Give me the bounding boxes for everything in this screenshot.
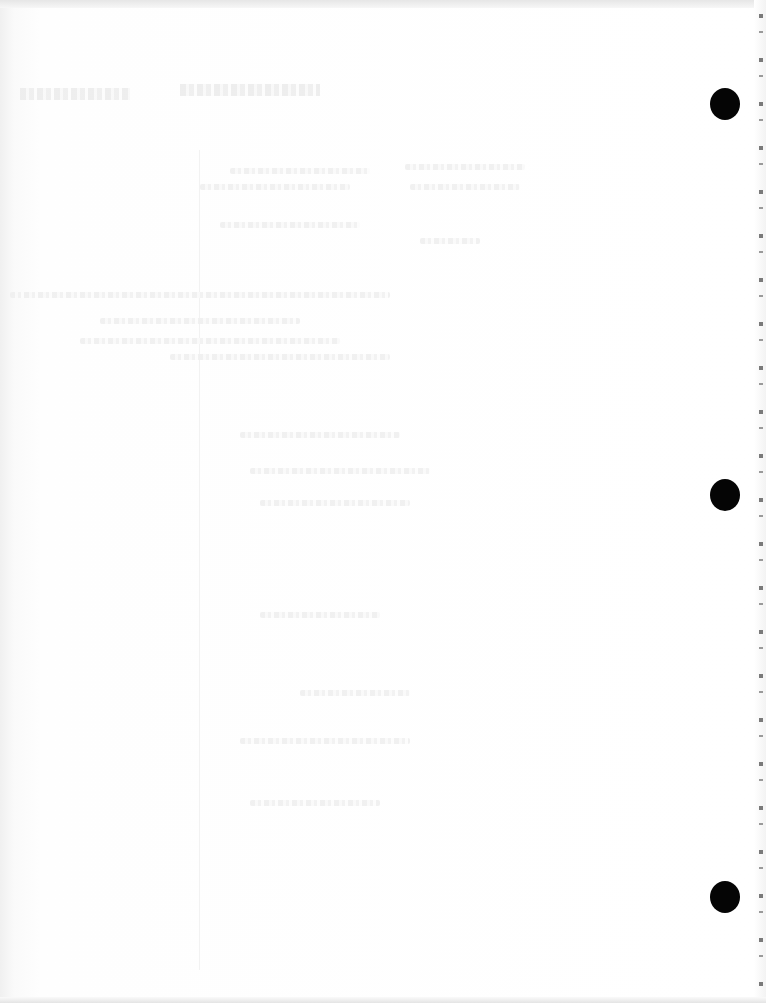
- scan-top-edge: [0, 0, 766, 8]
- ghost-text-line: [250, 800, 380, 806]
- ghost-text-line: [230, 168, 370, 174]
- ghost-text-line: [100, 318, 300, 324]
- ghost-text-line: [200, 184, 350, 190]
- ghost-text-line: [80, 338, 340, 344]
- ghost-text-line: [420, 238, 480, 244]
- ghost-text-line: [260, 612, 380, 618]
- ghost-text-line: [260, 500, 410, 506]
- punch-hole-middle: [710, 479, 740, 511]
- scan-bottom-edge: [0, 997, 766, 1003]
- ghost-heading-right: [180, 84, 320, 96]
- ghost-text-line: [405, 164, 525, 170]
- ghost-text-line: [220, 222, 360, 228]
- faint-column-rule: [199, 150, 200, 970]
- ghost-heading-left: [20, 88, 130, 100]
- ghost-text-line: [250, 468, 430, 474]
- ghost-text-line: [240, 738, 410, 744]
- punch-hole-top: [710, 88, 740, 120]
- ghost-text-line: [240, 432, 400, 438]
- ghost-text-line: [10, 292, 390, 298]
- ghost-text-line: [300, 690, 410, 696]
- scan-right-edge-specks: [759, 0, 763, 1003]
- punch-hole-bottom: [710, 881, 740, 913]
- ghost-text-line: [410, 184, 520, 190]
- ghost-text-line: [170, 354, 390, 360]
- scanned-page: [0, 0, 766, 1003]
